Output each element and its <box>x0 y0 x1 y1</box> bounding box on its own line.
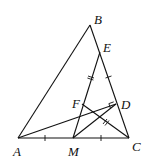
label-M: M <box>67 144 80 159</box>
label-E: E <box>102 40 111 55</box>
geometry-figure: A B C M E D F <box>0 0 151 166</box>
label-A: A <box>12 144 21 159</box>
tick-ME-1 <box>88 76 94 78</box>
label-D: D <box>120 97 131 112</box>
label-B: B <box>94 12 102 27</box>
label-F: F <box>71 96 81 111</box>
segment-AD <box>18 104 116 138</box>
tick-ME-2 <box>87 78 93 80</box>
label-C: C <box>132 139 141 154</box>
segment-ME <box>73 52 100 138</box>
segment-AB <box>18 25 90 138</box>
